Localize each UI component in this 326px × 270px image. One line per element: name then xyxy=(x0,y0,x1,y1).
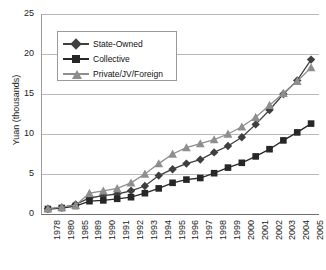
x-axis-tick-labels: 1978198019851989199019911992199319941995… xyxy=(0,218,322,270)
data-point-marker xyxy=(211,170,218,177)
x-axis-tick-label: 1995 xyxy=(177,220,188,264)
data-point-marker xyxy=(280,137,287,144)
data-point-marker xyxy=(113,184,122,192)
series-line xyxy=(48,60,311,209)
data-point-marker xyxy=(239,160,246,167)
x-axis-tick-label: 1978 xyxy=(52,220,63,264)
data-point-marker xyxy=(127,187,135,195)
chart-legend: State-Owned Collective Private/JV/Foreig… xyxy=(57,31,177,81)
legend-label: State-Owned xyxy=(93,39,143,49)
data-point-marker xyxy=(168,150,177,158)
x-axis-tick-label: 2004 xyxy=(301,220,312,264)
data-point-marker xyxy=(266,146,273,153)
legend-item-collective: Collective xyxy=(63,51,173,66)
x-axis-tick-label: 1994 xyxy=(163,220,174,264)
legend-item-private-jv-foreign: Private/JV/Foreign xyxy=(63,66,173,81)
x-axis-tick-label: 1999 xyxy=(232,220,243,264)
x-axis-tick-label: 1998 xyxy=(218,220,229,264)
data-point-marker xyxy=(210,148,218,156)
data-point-marker xyxy=(237,122,246,130)
data-point-marker xyxy=(169,180,176,187)
data-point-marker xyxy=(197,175,204,182)
data-point-marker xyxy=(140,170,149,178)
x-axis-tick-label: 1992 xyxy=(135,220,146,264)
data-point-marker xyxy=(307,55,315,63)
data-point-marker xyxy=(142,190,149,197)
x-axis-tick-label: 1996 xyxy=(190,220,201,264)
data-point-marker xyxy=(183,176,190,183)
x-axis-tick-label: 1990 xyxy=(107,220,118,264)
x-axis-tick-label: 2002 xyxy=(274,220,285,264)
data-point-marker xyxy=(128,194,135,201)
legend-swatch-square-icon xyxy=(63,53,89,65)
x-axis-tick-label: 2005 xyxy=(315,220,326,264)
data-point-marker xyxy=(127,178,136,186)
x-axis-tick-label: 2003 xyxy=(287,220,298,264)
x-axis-tick-label: 2001 xyxy=(260,220,271,264)
legend-label: Collective xyxy=(93,54,130,64)
x-axis-tick-label: 1985 xyxy=(80,220,91,264)
x-axis-tick-label: 1989 xyxy=(93,220,104,264)
data-point-marker xyxy=(100,197,107,204)
data-point-marker xyxy=(114,196,121,203)
data-point-marker xyxy=(210,135,219,143)
data-point-marker xyxy=(225,164,232,171)
x-axis-tick-label: 2000 xyxy=(246,220,257,264)
data-point-marker xyxy=(294,129,301,136)
legend-item-state-owned: State-Owned xyxy=(63,36,173,51)
x-axis-tick-label: 1991 xyxy=(121,220,132,264)
series-line xyxy=(48,68,311,209)
data-point-marker xyxy=(154,159,163,167)
data-point-marker xyxy=(86,198,93,205)
series-private-jv-foreign xyxy=(44,63,316,212)
data-point-marker xyxy=(224,130,233,138)
data-point-marker xyxy=(308,120,315,127)
data-point-marker xyxy=(224,142,232,150)
data-point-marker xyxy=(196,155,204,163)
data-point-marker xyxy=(155,185,162,192)
legend-swatch-diamond-icon xyxy=(63,38,89,50)
x-axis-tick-label: 1993 xyxy=(149,220,160,264)
x-axis-tick-label: 1980 xyxy=(66,220,77,264)
legend-swatch-triangle-icon xyxy=(63,68,89,80)
x-axis-tick-label: 1997 xyxy=(204,220,215,264)
data-point-marker xyxy=(252,153,259,160)
legend-label: Private/JV/Foreign xyxy=(93,69,163,79)
data-point-marker xyxy=(168,165,176,173)
data-point-marker xyxy=(182,159,190,167)
